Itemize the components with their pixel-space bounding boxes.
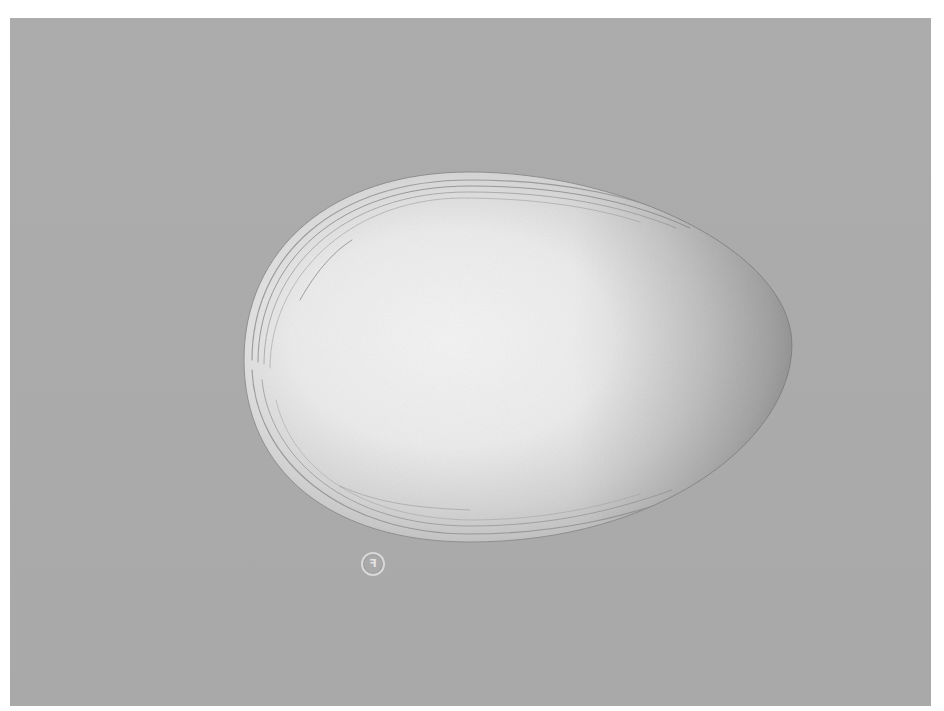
stamp-mark: ꟻ xyxy=(361,552,385,576)
stamp-glyph-icon: ꟻ xyxy=(363,554,383,574)
egg-illustration xyxy=(0,0,944,711)
